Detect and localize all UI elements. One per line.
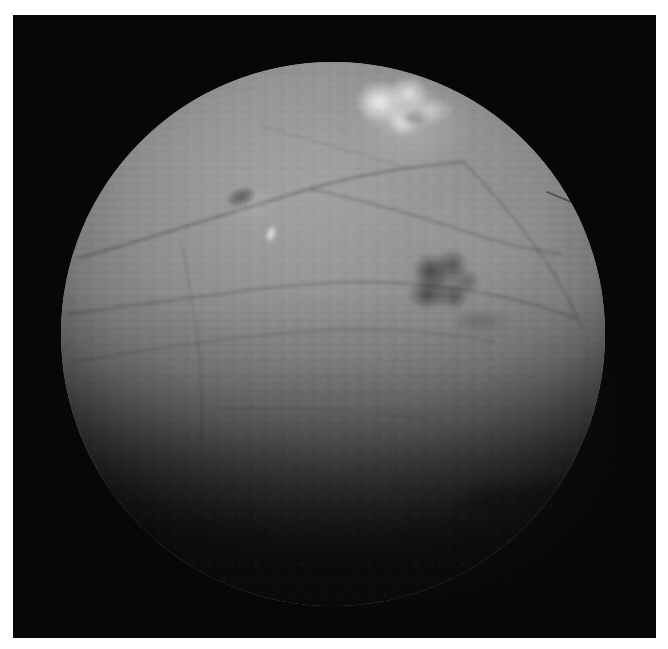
microaneurysm-lesion (224, 183, 259, 211)
vessel-thin-upper (261, 126, 409, 168)
vignette-bottom (61, 62, 605, 606)
vessel-arcade-mid-lower (73, 330, 493, 362)
dark-patch-lower-right (442, 454, 582, 542)
vessel-rim-right (547, 192, 601, 216)
hemorrhage-tail (457, 310, 511, 332)
exudate-halo (347, 76, 479, 180)
vessel-arcade-upper (79, 162, 465, 258)
hemorrhage-blot-lesion (402, 248, 486, 324)
drusen-dot-lesion (262, 223, 280, 246)
microaneurysm-halo (221, 182, 281, 226)
exudate-cluster-lesion (353, 76, 453, 148)
illumination-base-gradient (61, 62, 605, 606)
jpeg-block-texture (61, 62, 605, 606)
photo-field (13, 15, 656, 638)
vessel-arcade-upper-branch (311, 189, 561, 254)
illumination-hotspot (61, 62, 605, 606)
vessel-lower-faint (221, 408, 427, 421)
retinal-mottling-right (421, 182, 571, 302)
vessel-descending-left (181, 242, 202, 440)
vessel-arcade-mid (67, 282, 575, 318)
fundus-disc (61, 62, 605, 606)
vessel-diagonal-right (465, 164, 581, 326)
exudate-dark-core (397, 110, 427, 126)
vignette-rim (61, 62, 605, 606)
retinal-vessel-network (61, 62, 605, 606)
fundus-photograph-page (0, 0, 668, 649)
film-grain-texture (61, 62, 605, 606)
